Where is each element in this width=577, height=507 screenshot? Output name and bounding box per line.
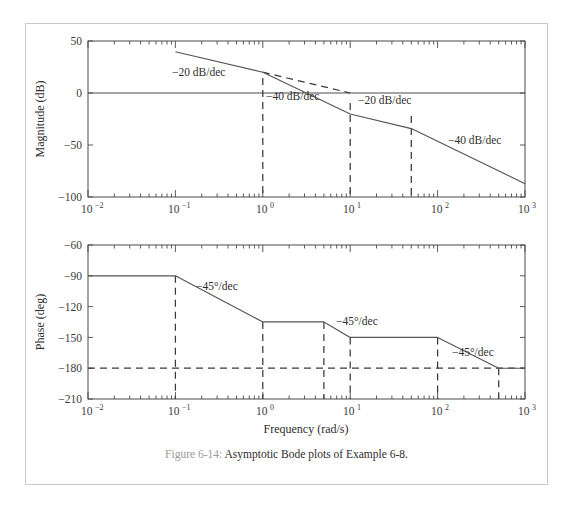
magnitude-x-ticks-bottom — [88, 190, 525, 197]
magnitude-annotation-1: −20 dB/dec — [172, 66, 225, 78]
magnitude-ytick-50: 50 — [71, 35, 83, 47]
phase-x-ticks-top — [88, 245, 525, 252]
magnitude-xtick-1e-2-exp: −2 — [95, 201, 104, 210]
magnitude-xtick-labels: 10 −2 10 −1 10 0 10 1 10 2 10 3 — [81, 201, 536, 215]
phase-ytick-minus90: −90 — [64, 270, 82, 282]
phase-ytick-minus180: −180 — [58, 362, 82, 374]
magnitude-annotation-4: −40 dB/dec — [448, 134, 501, 146]
phase-xtick-1e2: 10 — [431, 405, 443, 417]
phase-xtick-1e3-exp: 3 — [532, 403, 536, 412]
phase-ytick-minus150: −150 — [58, 332, 82, 344]
magnitude-x-ticks-top — [88, 41, 525, 48]
phase-annotation-1: −45°/dec — [196, 280, 238, 292]
phase-annotation-2: −45°/dec — [336, 315, 378, 327]
phase-x-ticks-bottom — [88, 392, 525, 399]
magnitude-plot: 50 0 −50 −100 — [33, 35, 536, 215]
magnitude-xtick-1e1-exp: 1 — [357, 201, 361, 210]
bode-plots-svg: 50 0 −50 −100 — [0, 0, 577, 507]
phase-xtick-1e-2: 10 — [81, 405, 93, 417]
phase-xtick-1e3: 10 — [518, 405, 530, 417]
phase-annotation-3: −45°/dec — [452, 346, 494, 358]
phase-xtick-1e2-exp: 2 — [445, 403, 449, 412]
phase-xtick-1e-1-exp: −1 — [182, 403, 191, 412]
figure-number: Figure 6-14: — [165, 448, 222, 460]
phase-xtick-labels: 10 −2 10 −1 10 0 10 1 10 2 10 3 — [81, 403, 536, 417]
magnitude-ytick-0: 0 — [76, 87, 82, 99]
magnitude-axes-box — [88, 41, 525, 197]
phase-xtick-1e-1: 10 — [168, 405, 180, 417]
phase-xtick-1e-2-exp: −2 — [95, 403, 104, 412]
magnitude-xtick-1e3-exp: 3 — [532, 201, 536, 210]
magnitude-annotation-2: −40 dB/dec — [266, 90, 319, 102]
phase-ylabel: Phase (deg) — [33, 294, 47, 350]
phase-xtick-1e1-exp: 1 — [357, 403, 361, 412]
magnitude-xtick-1e1: 10 — [343, 203, 355, 215]
magnitude-y-ticks — [88, 41, 525, 197]
magnitude-xtick-1e0-exp: 0 — [270, 201, 274, 210]
magnitude-ytick-minus100: −100 — [58, 191, 82, 203]
magnitude-xtick-1e2-exp: 2 — [445, 201, 449, 210]
phase-xtick-1e1: 10 — [343, 405, 355, 417]
magnitude-annotation-3: −20 dB/dec — [358, 94, 411, 106]
phase-xtick-1e0-exp: 0 — [270, 403, 274, 412]
phase-xlabel: Frequency (rad/s) — [264, 422, 349, 436]
phase-ytick-minus60: −60 — [64, 239, 82, 251]
bode-plot-stack: 50 0 −50 −100 — [0, 0, 577, 507]
magnitude-xtick-1e2: 10 — [431, 203, 443, 215]
magnitude-xtick-1e-2: 10 — [81, 203, 93, 215]
magnitude-xtick-1e0: 10 — [256, 203, 268, 215]
phase-plot: −60 −90 −120 −150 −180 −210 — [33, 239, 536, 436]
figure-caption: Figure 6-14: Asymptotic Bode plots of Ex… — [25, 448, 548, 460]
phase-ytick-minus210: −210 — [58, 393, 82, 405]
magnitude-xtick-1e-1-exp: −1 — [182, 201, 191, 210]
figure-caption-text: Asymptotic Bode plots of Example 6-8. — [225, 448, 408, 460]
magnitude-xtick-1e-1: 10 — [168, 203, 180, 215]
magnitude-xtick-1e3: 10 — [518, 203, 530, 215]
phase-xtick-1e0: 10 — [256, 405, 268, 417]
phase-ytick-minus120: −120 — [58, 301, 82, 313]
magnitude-ylabel: Magnitude (dB) — [33, 81, 47, 158]
magnitude-ytick-minus50: −50 — [64, 139, 82, 151]
